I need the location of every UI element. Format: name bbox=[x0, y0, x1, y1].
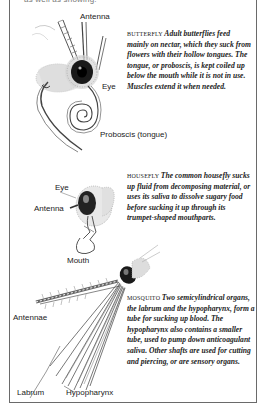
mosquito-caption-text: Two semicylindrical organs, the labrum a… bbox=[127, 293, 255, 366]
mosquito-label-antennae: Antennae bbox=[13, 313, 47, 322]
mosquito-label-labrum: Labrum bbox=[17, 388, 44, 397]
mosquito-title: Mosquito bbox=[127, 295, 162, 301]
mosquito-label-hypopharynx: Hypopharynx bbox=[66, 388, 113, 397]
mosquito-caption: Mosquito Two semicylindrical organs, the… bbox=[127, 293, 255, 367]
